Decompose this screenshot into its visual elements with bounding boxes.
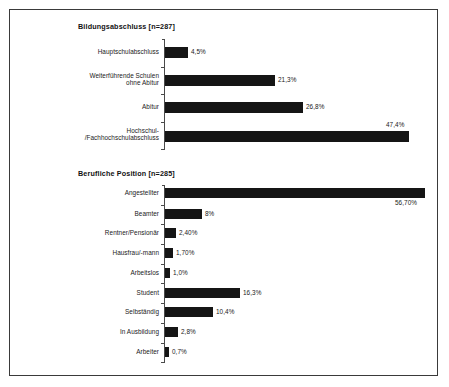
- bar: [165, 307, 213, 317]
- bar: [165, 75, 275, 86]
- category-label: Angestellter: [49, 189, 159, 197]
- category-label: Beamter: [49, 210, 159, 218]
- bar: [165, 288, 240, 298]
- bar-value-label: 4,5%: [191, 48, 206, 56]
- category-label: Arbeitslos: [49, 269, 159, 277]
- bar-row: Abitur 26,8%: [164, 94, 430, 122]
- bar: [165, 248, 173, 258]
- bar-row: Beamter 8%: [164, 205, 434, 225]
- bar-row: Student 16,3%: [164, 284, 434, 304]
- axis-tick: [161, 362, 164, 363]
- category-label: Arbeiter: [49, 348, 159, 356]
- bar-value-label: 0,7%: [172, 348, 187, 356]
- chart-berufliche-position: Berufliche Position [n=285] Angestellter…: [10, 165, 437, 377]
- bar-value-label: 16,3%: [243, 289, 261, 297]
- category-label: Hochschul- /Fachhochschulabschluss: [49, 127, 159, 142]
- bar-value-label: 8%: [205, 210, 214, 218]
- bar: [165, 347, 169, 357]
- category-label: In Ausbildung: [49, 328, 159, 336]
- category-label: Student: [49, 289, 159, 297]
- bar-row: Selbständig 10,4%: [164, 303, 434, 323]
- bar: [165, 131, 409, 142]
- bar-row: In Ausbildung 2,8%: [164, 323, 434, 343]
- bar-row: Hausfrau/-mann 1,70%: [164, 244, 434, 264]
- bar-value-label: 1,70%: [176, 249, 194, 257]
- category-label: Selbständig: [49, 308, 159, 316]
- chart-title-berufliche-position: Berufliche Position [n=285]: [78, 169, 175, 178]
- bar-value-label: 2,40%: [179, 229, 197, 237]
- bar-value-label: 21,3%: [278, 76, 296, 84]
- plot-area-bildungsabschluss: Hauptschulabschluss 4,5% Weiterführende …: [164, 39, 430, 150]
- bar: [165, 228, 176, 238]
- category-label: Hausfrau/-mann: [49, 249, 159, 257]
- bar-row: Arbeitslos 1,0%: [164, 264, 434, 284]
- plot-area-berufliche-position: Angestellter 56,70% Beamter 8% Rentner/P…: [164, 185, 434, 363]
- bar: [165, 268, 170, 278]
- bar: [165, 209, 202, 219]
- bar: [165, 102, 303, 113]
- bar-value-label: 2,8%: [181, 328, 196, 336]
- category-label: Weiterführende Schulen ohne Abitur: [49, 72, 159, 87]
- category-label: Rentner/Pensionär: [49, 229, 159, 237]
- chart-bildungsabschluss: Bildungsabschluss [n=287] Hauptschulabsc…: [10, 10, 437, 170]
- bar-row: Weiterführende Schulen ohne Abitur 21,3%: [164, 67, 430, 95]
- bar-row: Arbeiter 0,7%: [164, 343, 434, 363]
- category-label: Hauptschulabschluss: [49, 48, 159, 56]
- axis-tick: [161, 149, 164, 150]
- bar-row: Rentner/Pensionär 2,40%: [164, 224, 434, 244]
- bar-value-label: 10,4%: [216, 308, 234, 316]
- bar-value-label: 1,0%: [173, 269, 188, 277]
- chart-title-bildungsabschluss: Bildungsabschluss [n=287]: [78, 22, 175, 31]
- category-label: Abitur: [49, 103, 159, 111]
- bar-row: Hauptschulabschluss 4,5%: [164, 39, 430, 67]
- bar: [165, 47, 188, 58]
- bar: [165, 327, 178, 337]
- bar-row: Hochschul- /Fachhochschulabschluss 47,4%: [164, 122, 430, 150]
- figure-frame: Bildungsabschluss [n=287] Hauptschulabsc…: [9, 9, 438, 376]
- bar: [165, 188, 425, 198]
- bar-value-label: 26,8%: [306, 103, 324, 111]
- bar-value-label: 47,4%: [386, 121, 404, 129]
- bar-row: Angestellter 56,70%: [164, 185, 434, 205]
